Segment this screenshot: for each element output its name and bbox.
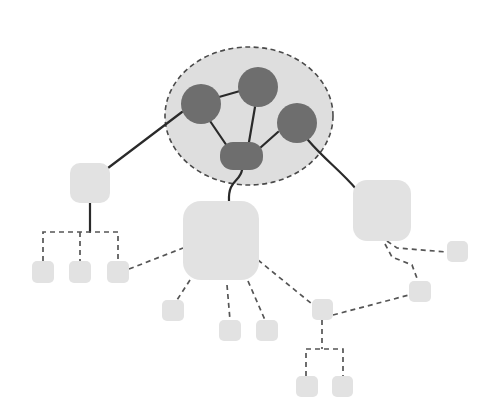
diagram-canvas [0,0,487,418]
node-leaf-l3[interactable] [107,261,129,283]
node-leaf-c1[interactable] [162,300,184,321]
node-core-hub[interactable] [220,142,263,170]
node-leaf-l1[interactable] [32,261,54,283]
node-right-big[interactable] [353,180,411,241]
node-leaf-c3[interactable] [256,320,278,341]
node-leaf-b2[interactable] [332,376,353,397]
node-core-c[interactable] [277,103,317,143]
node-leaf-r1[interactable] [447,241,468,262]
node-core-b[interactable] [238,67,278,107]
node-leaf-l2[interactable] [69,261,91,283]
node-center-big[interactable] [183,201,259,280]
node-left-mid[interactable] [70,163,110,203]
node-leaf-b1[interactable] [296,376,318,397]
node-leaf-r2[interactable] [409,281,431,302]
node-relay[interactable] [312,299,333,320]
network-diagram [0,0,487,418]
node-leaf-c2[interactable] [219,320,241,341]
node-core-a[interactable] [181,84,221,124]
